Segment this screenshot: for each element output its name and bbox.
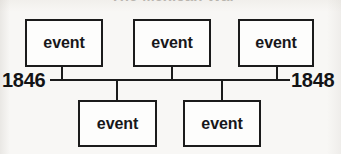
event-box-label: event: [97, 116, 138, 132]
timeline-end-year: 1848: [291, 70, 334, 90]
event-box-below-2: event: [183, 100, 261, 147]
connector-stem-below-2: [221, 80, 223, 101]
connector-stem-below-1: [116, 80, 118, 101]
event-box-above-2: event: [133, 19, 211, 67]
event-box-label: event: [201, 116, 242, 132]
event-box-label: event: [255, 35, 296, 51]
diagram-title-cutoff: The Mexican War: [62, 0, 284, 3]
timeline-start-year: 1846: [2, 70, 45, 90]
timeline-axis: [50, 79, 290, 81]
event-box-below-1: event: [78, 100, 157, 147]
timeline-diagram: The Mexican War event event event 1846 1…: [0, 0, 341, 154]
event-box-label: event: [151, 35, 192, 51]
event-box-above-3: event: [238, 19, 314, 67]
event-box-above-1: event: [25, 19, 103, 67]
event-box-label: event: [43, 35, 84, 51]
